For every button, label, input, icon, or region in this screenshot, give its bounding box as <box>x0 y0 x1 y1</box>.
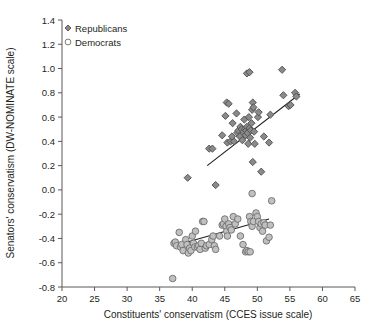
data-point-republican <box>265 139 272 146</box>
data-point-democrat <box>228 227 235 234</box>
data-point-republican <box>258 168 265 175</box>
data-point-democrat <box>216 233 223 240</box>
data-point-democrat <box>235 216 242 223</box>
data-point-republican <box>267 111 274 118</box>
data-point-republican <box>249 158 256 165</box>
x-tick-label: 25 <box>89 293 100 304</box>
data-point-democrat <box>176 229 183 236</box>
y-tick-label: 1.2 <box>42 39 55 50</box>
data-point-democrat <box>240 241 247 248</box>
x-tick-label: 45 <box>219 293 230 304</box>
x-tick-label: 65 <box>350 293 361 304</box>
x-tick-label: 55 <box>285 293 296 304</box>
x-tick-label: 40 <box>187 293 198 304</box>
chart-figure: 20253035404550556065 -0.8-0.6-0.4-0.20.0… <box>0 0 377 330</box>
scatter-plot: 20253035404550556065 -0.8-0.6-0.4-0.20.0… <box>0 0 377 330</box>
legend-marker-republicans <box>65 25 71 31</box>
data-point-republican <box>229 120 236 127</box>
data-point-democrat <box>267 222 274 229</box>
data-point-republican <box>233 110 240 117</box>
data-point-republican <box>251 140 258 147</box>
legend-label-democrats: Democrats <box>75 37 121 48</box>
y-tick-labels: -0.8-0.6-0.4-0.20.00.20.40.60.81.01.21.4 <box>39 15 55 293</box>
legend-label-republicans: Republicans <box>75 23 128 34</box>
data-point-republican <box>280 92 287 99</box>
legend-marker-democrats <box>65 39 71 45</box>
y-tick-label: -0.6 <box>39 257 55 268</box>
y-tick-label: -0.4 <box>39 233 55 244</box>
y-tick-label: 0.6 <box>42 112 55 123</box>
y-tick-label: 0.2 <box>42 160 55 171</box>
y-tick-label: 1.4 <box>42 15 55 26</box>
data-point-republican <box>222 112 229 119</box>
y-tick-label: -0.8 <box>39 282 55 293</box>
y-tick-label: 0.4 <box>42 136 55 147</box>
data-point-democrat <box>247 249 254 256</box>
data-point-democrat <box>268 198 275 205</box>
x-axis-title: Constituents' conservatism (CCES issue s… <box>104 309 313 320</box>
y-tick-label: -0.2 <box>39 209 55 220</box>
data-point-democrat <box>192 228 199 235</box>
data-point-democrat <box>237 233 244 240</box>
x-tick-label: 50 <box>252 293 263 304</box>
data-point-democrat <box>212 246 219 253</box>
data-point-republican <box>219 132 226 139</box>
data-point-democrat <box>259 228 266 235</box>
data-point-democrat <box>201 218 208 225</box>
data-point-democrat <box>210 233 217 240</box>
x-tick-label: 20 <box>57 293 68 304</box>
y-tick-label: 0.8 <box>42 87 55 98</box>
x-tick-label: 60 <box>317 293 328 304</box>
x-tick-labels: 20253035404550556065 <box>57 293 361 304</box>
y-tick-label: 0.0 <box>42 184 55 195</box>
data-point-republican <box>278 66 285 73</box>
y-axis-title: Senators' conservatism (DW-NOMINATE scal… <box>5 47 16 258</box>
data-point-democrat <box>169 275 176 282</box>
data-point-democrat <box>266 234 273 241</box>
y-tick-label: 1.0 <box>42 63 55 74</box>
x-tick-label: 30 <box>122 293 133 304</box>
data-point-republican <box>212 181 219 188</box>
data-points <box>169 66 300 282</box>
data-point-democrat <box>224 233 231 240</box>
data-point-democrat <box>249 190 256 197</box>
x-tick-label: 35 <box>154 293 165 304</box>
data-point-republican <box>184 174 191 181</box>
chart-legend: RepublicansDemocrats <box>65 23 128 48</box>
data-point-republican <box>260 133 267 140</box>
